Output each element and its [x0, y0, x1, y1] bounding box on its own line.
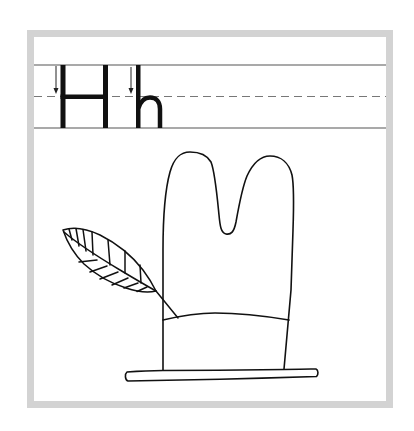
worksheet-art: H h: [0, 0, 414, 431]
hat-illustration: [125, 152, 318, 381]
uppercase-letter-h: [61, 65, 109, 128]
feather-stem: [156, 291, 178, 318]
hat-brim: [125, 369, 318, 381]
feather-illustration: [63, 228, 178, 318]
hat-band: [163, 313, 289, 320]
arrow-down-icon: [129, 67, 134, 94]
arrow-down-icon: [54, 66, 59, 94]
hat-crown: [163, 152, 294, 370]
